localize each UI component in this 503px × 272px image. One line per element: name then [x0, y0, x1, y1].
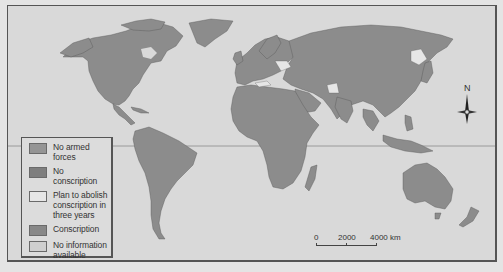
map-legend: No armed forces No conscription Plan to … — [21, 137, 113, 258]
new-zealand — [459, 207, 479, 227]
arctic-islands — [121, 19, 165, 31]
legend-swatch — [29, 167, 47, 178]
legend-label: Plan to abolish conscription in three ye… — [53, 190, 108, 220]
legend-item-no-conscription: No conscription — [29, 166, 108, 186]
australia — [403, 163, 453, 209]
scale-label-2000: 2000 — [338, 233, 356, 242]
compass-rose-icon — [452, 82, 482, 128]
legend-item-no-armed-forces: No armed forces — [29, 142, 108, 162]
north-america — [63, 23, 183, 105]
legend-item-no-information: No information available — [29, 240, 108, 260]
light-region-central-asia — [327, 83, 339, 93]
philippines — [405, 115, 413, 131]
legend-swatch — [29, 241, 47, 252]
scale-tick — [316, 243, 317, 246]
scale-tick — [346, 243, 347, 246]
legend-swatch — [29, 191, 47, 202]
greenland — [189, 19, 233, 47]
legend-label: Conscription — [53, 224, 99, 234]
legend-item-conscription: Conscription — [29, 224, 108, 236]
scale-bar: 0 2000 4000 km — [314, 233, 414, 253]
compass-rose: N — [452, 82, 482, 128]
tasmania — [435, 213, 441, 219]
scale-label-4000: 4000 km — [370, 233, 401, 242]
legend-item-plan-to-abolish: Plan to abolish conscription in three ye… — [29, 190, 108, 220]
legend-label: No conscription — [53, 166, 108, 186]
legend-swatch — [29, 225, 47, 236]
indonesia — [383, 135, 433, 153]
southeast-asia — [363, 109, 379, 131]
scale-label-0: 0 — [314, 233, 318, 242]
south-america — [133, 127, 197, 239]
legend-label: No information available — [53, 240, 108, 260]
madagascar — [305, 165, 317, 191]
legend-label: No armed forces — [53, 142, 108, 162]
legend-swatch — [29, 143, 47, 154]
india — [335, 97, 353, 123]
scale-tick — [376, 243, 377, 246]
caribbean — [131, 107, 149, 113]
